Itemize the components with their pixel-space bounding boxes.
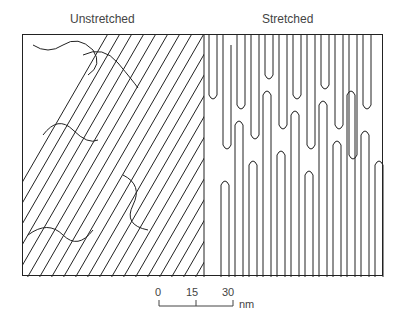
scale-unit: nm — [239, 298, 254, 310]
stretched-panel — [209, 35, 383, 277]
lamellae-pattern — [23, 35, 384, 277]
scale-bar-line — [155, 286, 275, 316]
micrograph-frame — [22, 34, 383, 276]
panel-label-stretched: Stretched — [262, 12, 313, 26]
panel-label-unstretched: Unstretched — [70, 12, 135, 26]
scale-bar: 0 15 30 nm — [155, 286, 275, 316]
